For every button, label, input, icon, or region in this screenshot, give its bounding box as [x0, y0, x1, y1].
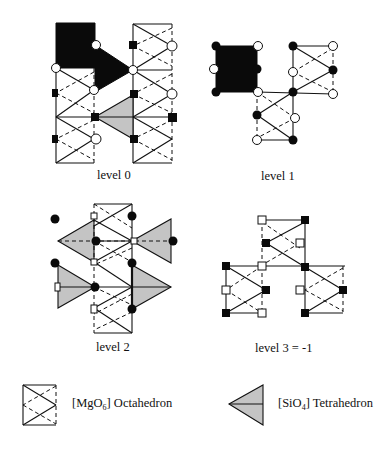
legend-octahedron-symbol [23, 385, 56, 425]
legend-tetrahedron-symbol [229, 385, 263, 425]
legend-tetrahedron-label: [SiO4] Tetrahedron [278, 396, 373, 412]
label-level-1: level 1 [261, 169, 295, 184]
label-level-2: level 2 [96, 340, 130, 355]
olivine-structure-diagram: .s { stroke:#111; stroke-width:1.1; fill… [0, 0, 392, 452]
tetrahedron-formula-suffix: ] Tetrahedron [306, 396, 373, 410]
filled-octahedron-block [56, 23, 133, 92]
octahedron-formula-suffix: ] Octahedron [107, 396, 173, 410]
label-level-3: level 3 = -1 [255, 341, 312, 356]
octahedron-formula-prefix: [MgO [72, 396, 103, 410]
octahedron-column-left [56, 68, 94, 163]
tetrahedron-formula-prefix: [SiO [278, 396, 302, 410]
label-level-0: level 0 [97, 168, 131, 183]
panel-level-3 [222, 216, 347, 317]
panel-level-2 [51, 204, 178, 333]
octahedron-column-right [133, 24, 172, 163]
legend-octahedron-label: [MgO6] Octahedron [72, 396, 172, 412]
panel-level-0 [52, 23, 178, 163]
panel-level-1 [210, 42, 338, 145]
filled-octahedron-block [216, 46, 257, 92]
